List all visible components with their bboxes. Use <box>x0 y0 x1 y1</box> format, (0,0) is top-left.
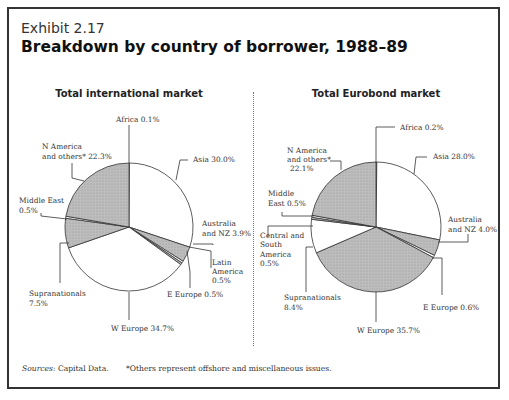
left-label-australia-2: and NZ 3.9% <box>202 229 251 238</box>
left-label-asia: Asia 30.0% <box>192 155 235 164</box>
pie-slice-n-america-and-others <box>66 163 129 227</box>
footnote: *Others represent offshore and miscellan… <box>126 364 332 373</box>
footer: Sources: Capital Data. *Others represent… <box>22 364 109 373</box>
right-label-namerica-1: N America <box>287 146 328 155</box>
left-label-africa: Africa 0.1% <box>115 115 160 124</box>
left-label-eeurope: E Europe 0.5% <box>167 290 223 299</box>
left-label-middle-east-2: 0.5% <box>19 206 38 215</box>
right-label-csam-4: 0.5% <box>260 259 279 268</box>
left-label-supra-1: Supranationals <box>29 289 86 298</box>
right-label-africa: Africa 0.2% <box>399 123 444 132</box>
left-label-namerica-2: and others* 22.3% <box>42 152 112 161</box>
right-label-middle-east-2: East 0.5% <box>268 199 306 208</box>
left-label-latam-2: America <box>211 267 244 276</box>
pie-charts: Africa 0.1% N America and others* 22.3% … <box>0 0 509 400</box>
pie-international <box>65 163 193 291</box>
right-label-csam-2: South <box>260 240 282 249</box>
right-label-australia-1: Australia <box>447 215 483 224</box>
left-label-latam-1: Latin <box>212 258 232 267</box>
right-label-supra-2: 8.4% <box>284 303 303 312</box>
pie-slice-asia <box>376 162 441 240</box>
left-label-supra-2: 7.5% <box>29 299 48 308</box>
left-label-australia-1: Australia <box>201 219 237 228</box>
pie-slice-n-america-and-others <box>312 162 376 227</box>
source-label: Sources <box>22 364 53 373</box>
right-label-eeurope: E Europe 0.6% <box>423 303 479 312</box>
source-text: : Capital Data. <box>53 364 109 373</box>
right-label-middle-east-1: Middle <box>268 189 294 198</box>
left-label-weurope: W Europe 34.7% <box>111 324 174 333</box>
right-label-supra-1: Supranationals <box>284 293 341 302</box>
left-label-latam-3: 0.5% <box>212 276 231 285</box>
right-label-csam-3: America <box>259 250 292 259</box>
left-label-namerica-1: N America <box>42 142 83 151</box>
right-label-namerica-2: and others* <box>287 155 331 164</box>
right-label-csam-1: Central and <box>260 231 305 240</box>
right-label-australia-2: and NZ 4.0% <box>448 225 497 234</box>
left-label-middle-east-1: Middle East <box>19 196 64 205</box>
pie-eurobond <box>311 162 441 292</box>
right-label-namerica-3: 22.1% <box>290 164 313 173</box>
right-label-asia: Asia 28.0% <box>432 152 475 161</box>
right-label-weurope: W Europe 35.7% <box>357 326 420 335</box>
